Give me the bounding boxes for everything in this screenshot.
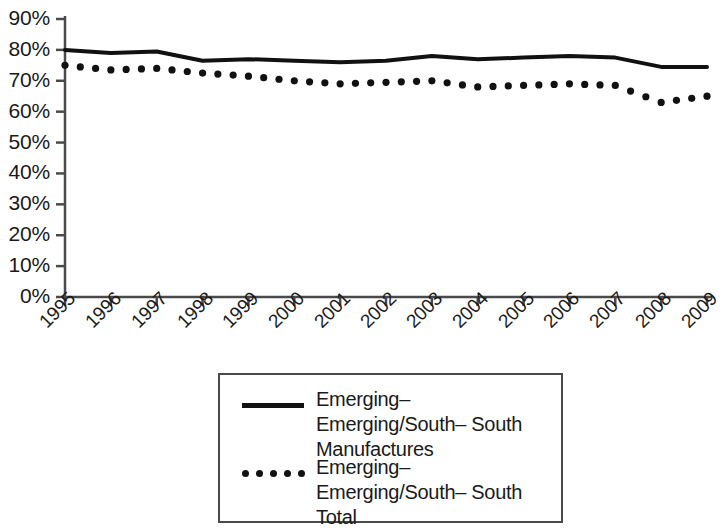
y-axis-tick-label: 0% bbox=[0, 284, 50, 308]
legend-label-total: Emerging–Emerging/South– South Total bbox=[316, 455, 548, 528]
y-axis-tick-label: 10% bbox=[0, 253, 50, 277]
series-dot bbox=[673, 97, 680, 104]
legend-entry-total: Emerging–Emerging/South– South Total bbox=[220, 455, 561, 515]
series-dot bbox=[230, 72, 237, 79]
series-dot bbox=[337, 80, 344, 87]
series-dot bbox=[688, 95, 695, 102]
series-dot bbox=[703, 93, 710, 100]
legend-solid-line-icon bbox=[242, 403, 304, 408]
legend-dot-icon bbox=[256, 470, 263, 477]
series-dot bbox=[61, 62, 68, 69]
series-dot bbox=[168, 66, 175, 73]
dotted-line-sample bbox=[242, 467, 304, 479]
series-dot bbox=[245, 73, 252, 80]
y-axis-tick-label: 50% bbox=[0, 130, 50, 154]
series-line-manufactures bbox=[65, 50, 707, 67]
series-dot bbox=[627, 87, 634, 94]
series-dot bbox=[551, 81, 558, 88]
series-dot bbox=[444, 79, 451, 86]
legend-label-manufactures: Emerging–Emerging/South– South Manufactu… bbox=[316, 387, 548, 462]
series-dot bbox=[505, 82, 512, 89]
series-dot bbox=[520, 82, 527, 89]
series-dot bbox=[459, 81, 466, 88]
series-dot bbox=[642, 93, 649, 100]
series-dot bbox=[107, 66, 114, 73]
series-dot bbox=[123, 66, 130, 73]
series-dot bbox=[489, 83, 496, 90]
y-axis-tick-label: 30% bbox=[0, 191, 50, 215]
series-dot bbox=[581, 81, 588, 88]
series-dot bbox=[77, 63, 84, 70]
series-dot bbox=[566, 80, 573, 87]
series-dot bbox=[199, 69, 206, 76]
series-dot bbox=[260, 74, 267, 81]
series-dot bbox=[367, 79, 374, 86]
series-dot bbox=[413, 78, 420, 85]
series-dot bbox=[658, 99, 665, 106]
legend-dot-icon bbox=[242, 470, 249, 477]
series-dot bbox=[92, 65, 99, 72]
series-dots-total bbox=[61, 62, 710, 106]
y-axis-tick-label: 60% bbox=[0, 99, 50, 123]
y-axis-tick-label: 40% bbox=[0, 160, 50, 184]
legend-entry-manufactures: Emerging–Emerging/South– South Manufactu… bbox=[220, 387, 561, 447]
solid-line-sample bbox=[242, 399, 304, 411]
series-dot bbox=[382, 79, 389, 86]
legend-label-total-line1: Emerging–Emerging/South– bbox=[316, 456, 466, 503]
y-axis-ticks bbox=[56, 19, 65, 297]
series-dot bbox=[428, 77, 435, 84]
y-axis-tick-label: 80% bbox=[0, 37, 50, 61]
series-dot bbox=[352, 80, 359, 87]
series-dot bbox=[474, 83, 481, 90]
series-dot bbox=[398, 78, 405, 85]
series-dot bbox=[291, 77, 298, 84]
legend-dot-icon bbox=[270, 470, 277, 477]
legend-dot-icon bbox=[284, 470, 291, 477]
series-dot bbox=[596, 81, 603, 88]
series-dot bbox=[138, 65, 145, 72]
series-dot bbox=[153, 65, 160, 72]
series-dot bbox=[184, 68, 191, 75]
series-dot bbox=[535, 81, 542, 88]
legend-label-manufactures-line1: Emerging–Emerging/South– bbox=[316, 388, 466, 435]
series-dot bbox=[214, 70, 221, 77]
legend-dot-icon bbox=[298, 470, 305, 477]
y-axis-tick-label: 70% bbox=[0, 68, 50, 92]
series-dot bbox=[321, 79, 328, 86]
series-dot bbox=[612, 82, 619, 89]
series-dot bbox=[275, 76, 282, 83]
y-axis-tick-label: 90% bbox=[0, 6, 50, 30]
y-axis-tick-label: 20% bbox=[0, 222, 50, 246]
series-dot bbox=[306, 78, 313, 85]
chart-legend: Emerging–Emerging/South– South Manufactu… bbox=[218, 373, 563, 523]
